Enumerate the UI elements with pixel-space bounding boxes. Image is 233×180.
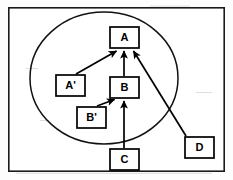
node-a[interactable]: A — [110, 27, 139, 48]
node-b-prime-label: B' — [86, 111, 97, 123]
node-c[interactable]: C — [110, 149, 139, 170]
diagram-canvas: A A' B B' C D — [0, 0, 233, 180]
node-b-prime[interactable]: B' — [77, 107, 106, 128]
diagram-figure: A A' B B' C D — [0, 0, 233, 180]
node-a-prime-label: A' — [65, 79, 76, 91]
node-a-label: A — [121, 31, 129, 43]
node-c-label: C — [121, 153, 129, 165]
node-d-label: D — [196, 141, 204, 153]
node-d[interactable]: D — [185, 137, 214, 158]
node-b[interactable]: B — [110, 77, 139, 98]
node-a-prime[interactable]: A' — [56, 75, 85, 96]
node-b-label: B — [121, 81, 129, 93]
